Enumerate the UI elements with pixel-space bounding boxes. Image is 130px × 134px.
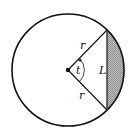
angle-label: t	[76, 64, 81, 77]
chord-label: L	[98, 64, 106, 77]
center-point	[66, 68, 70, 72]
shaded-circular-segment	[107, 30, 124, 110]
radius-label-lower: r	[79, 89, 85, 102]
angle-arc	[80, 59, 84, 81]
circle-segment-diagram: r r t L	[0, 0, 130, 134]
radius-label-upper: r	[80, 39, 86, 52]
